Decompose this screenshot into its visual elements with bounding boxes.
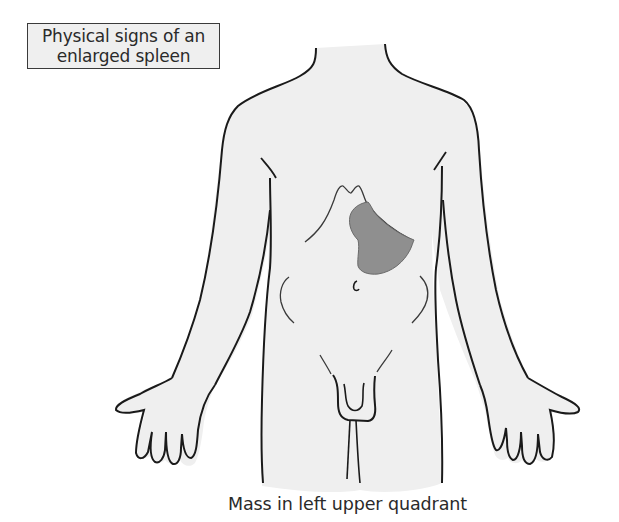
figure-caption: Mass in left upper quadrant [0,494,619,514]
body-silhouette [116,44,579,492]
body-diagram [0,0,619,522]
